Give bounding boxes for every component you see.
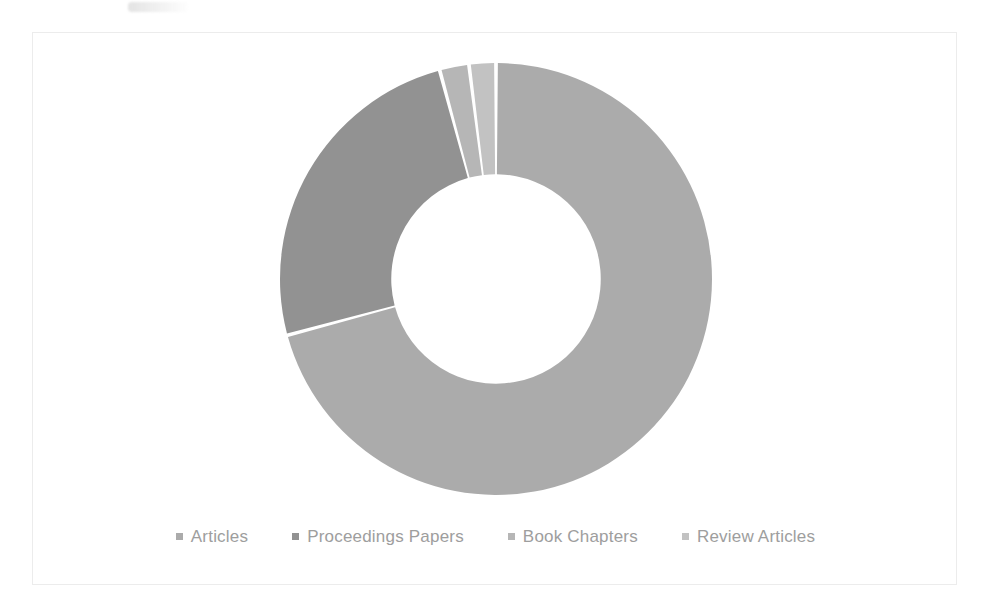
chart-card: ArticlesProceedings PapersBook ChaptersR… xyxy=(32,32,957,585)
donut-chart: ArticlesProceedings PapersBook ChaptersR… xyxy=(33,33,958,586)
legend-item-proceedings-papers[interactable]: Proceedings Papers xyxy=(292,528,464,545)
legend-item-book-chapters[interactable]: Book Chapters xyxy=(508,528,638,545)
legend-swatch-icon-proceedings-papers xyxy=(292,533,299,540)
scan-speckle xyxy=(128,2,188,12)
legend-item-articles[interactable]: Articles xyxy=(176,528,248,545)
legend-swatch-icon-articles xyxy=(176,533,183,540)
legend-label-review-articles: Review Articles xyxy=(697,528,815,545)
donut-slice[interactable]: Proceedings Papers xyxy=(280,71,468,333)
legend-item-review-articles[interactable]: Review Articles xyxy=(682,528,815,545)
legend-label-articles: Articles xyxy=(191,528,248,545)
chart-plot-area: ArticlesProceedings PapersBook ChaptersR… xyxy=(33,33,958,586)
legend-label-proceedings-papers: Proceedings Papers xyxy=(307,528,464,545)
legend-swatch-icon-book-chapters xyxy=(508,533,515,540)
donut-slice-group: ArticlesProceedings PapersBook ChaptersR… xyxy=(280,63,712,495)
legend-swatch-icon-review-articles xyxy=(682,533,689,540)
legend-label-book-chapters: Book Chapters xyxy=(523,528,638,545)
chart-legend: Articles Proceedings Papers Book Chapter… xyxy=(33,528,958,545)
